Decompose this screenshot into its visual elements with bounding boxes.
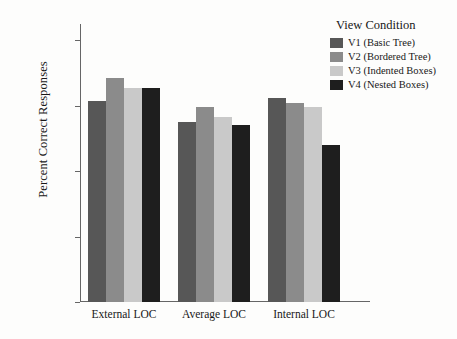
legend-item: V4 (Nested Boxes) [330,78,457,91]
legend-item-label: V3 (Indented Boxes) [348,64,436,77]
legend-item: V3 (Indented Boxes) [330,64,457,77]
bar [322,145,340,302]
legend-item: V2 (Bordered Tree) [330,50,457,63]
x-axis-tick-label: Average LOC [182,308,246,320]
y-axis-tick [75,237,80,238]
bar [232,125,250,302]
legend-swatch-icon [330,66,343,76]
bar [196,107,214,302]
x-axis-tick-label: External LOC [92,308,157,320]
legend-item-label: V2 (Bordered Tree) [348,50,431,63]
legend-item: V1 (Basic Tree) [330,36,457,49]
legend: View Condition V1 (Basic Tree)V2 (Border… [330,18,457,92]
bar [286,103,304,303]
y-axis-line [80,24,81,302]
bar [178,122,196,302]
bar [106,78,124,302]
bar [88,101,106,302]
legend-entries: V1 (Basic Tree)V2 (Bordered Tree)V3 (Ind… [330,36,457,91]
bar-chart-figure: Percent Correct Responses 0%20%40%60%80%… [0,0,457,339]
legend-swatch-icon [330,38,343,48]
legend-swatch-icon [330,80,343,90]
y-axis-tick [75,40,80,41]
legend-item-label: V1 (Basic Tree) [348,36,415,49]
x-axis-tick-label: Internal LOC [273,308,335,320]
y-axis-tick [75,302,80,303]
legend-item-label: V4 (Nested Boxes) [348,78,428,91]
legend-swatch-icon [330,52,343,62]
y-axis-tick [75,106,80,107]
bar [268,98,286,302]
plot-area: 0%20%40%60%80% External LOCAverage LOCIn… [80,24,370,302]
bar [124,88,142,302]
bar [304,107,322,302]
y-axis-tick [75,171,80,172]
bar [214,117,232,302]
legend-title: View Condition [336,18,457,33]
y-axis-title: Percent Correct Responses [36,10,51,250]
bar [142,88,160,302]
